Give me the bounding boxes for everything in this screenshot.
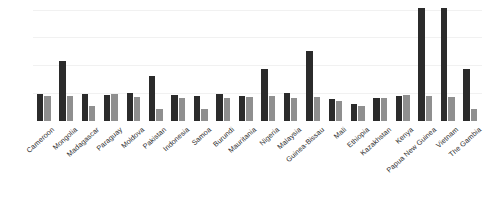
bar: [44, 96, 50, 121]
x-axis-label: Mali: [332, 125, 348, 141]
bar-chart: CameroonMongoliaMadagascarParaguayMoldov…: [0, 0, 495, 205]
bar: [358, 106, 364, 121]
bar-group: [168, 0, 190, 121]
bar: [381, 98, 387, 121]
bar: [463, 69, 469, 121]
bar: [329, 99, 335, 121]
bar: [426, 96, 432, 121]
bar: [441, 8, 447, 121]
bar: [134, 97, 140, 121]
bar: [171, 95, 177, 121]
bars-layer: [33, 0, 482, 121]
bar: [471, 109, 477, 121]
bar: [201, 109, 207, 121]
bar: [373, 98, 379, 121]
bar: [396, 96, 402, 121]
bar: [37, 94, 43, 121]
bar: [351, 104, 357, 121]
bar-group: [33, 0, 55, 121]
bar-group: [437, 0, 459, 121]
bar-group: [325, 0, 347, 121]
bar-group: [235, 0, 257, 121]
bar-group: [78, 0, 100, 121]
bar: [59, 61, 65, 121]
bar: [291, 98, 297, 121]
bar-group: [460, 0, 482, 121]
bar: [127, 93, 133, 121]
bar: [179, 98, 185, 121]
bar: [403, 95, 409, 121]
bar: [269, 96, 275, 121]
bar: [239, 96, 245, 121]
plot-area: [33, 0, 482, 122]
bar: [246, 97, 252, 121]
bar-group: [100, 0, 122, 121]
bar-group: [190, 0, 212, 121]
x-axis-label: Moldova: [119, 125, 146, 150]
x-axis-label: Cameroon: [25, 125, 57, 155]
bar: [104, 95, 110, 121]
bar: [306, 51, 312, 121]
bar-group: [280, 0, 302, 121]
bar: [89, 106, 95, 121]
bar: [82, 94, 88, 121]
bar-group: [123, 0, 145, 121]
bar: [261, 69, 267, 121]
bar-group: [392, 0, 414, 121]
bar: [448, 97, 454, 121]
bar-group: [213, 0, 235, 121]
bar: [111, 94, 117, 121]
bar-group: [347, 0, 369, 121]
bar: [194, 96, 200, 121]
bar-group: [55, 0, 77, 121]
bar: [336, 101, 342, 121]
bar: [284, 93, 290, 121]
bar: [418, 8, 424, 121]
bar-group: [258, 0, 280, 121]
bar-group: [415, 0, 437, 121]
bar: [314, 97, 320, 121]
bar: [149, 76, 155, 121]
x-axis-labels: CameroonMongoliaMadagascarParaguayMoldov…: [33, 122, 495, 205]
bar-group: [302, 0, 324, 121]
bar: [156, 109, 162, 121]
bar: [224, 98, 230, 121]
x-axis-label: Samoa: [190, 125, 213, 147]
bar-group: [370, 0, 392, 121]
bar: [216, 94, 222, 121]
bar: [67, 96, 73, 121]
bar-group: [145, 0, 167, 121]
